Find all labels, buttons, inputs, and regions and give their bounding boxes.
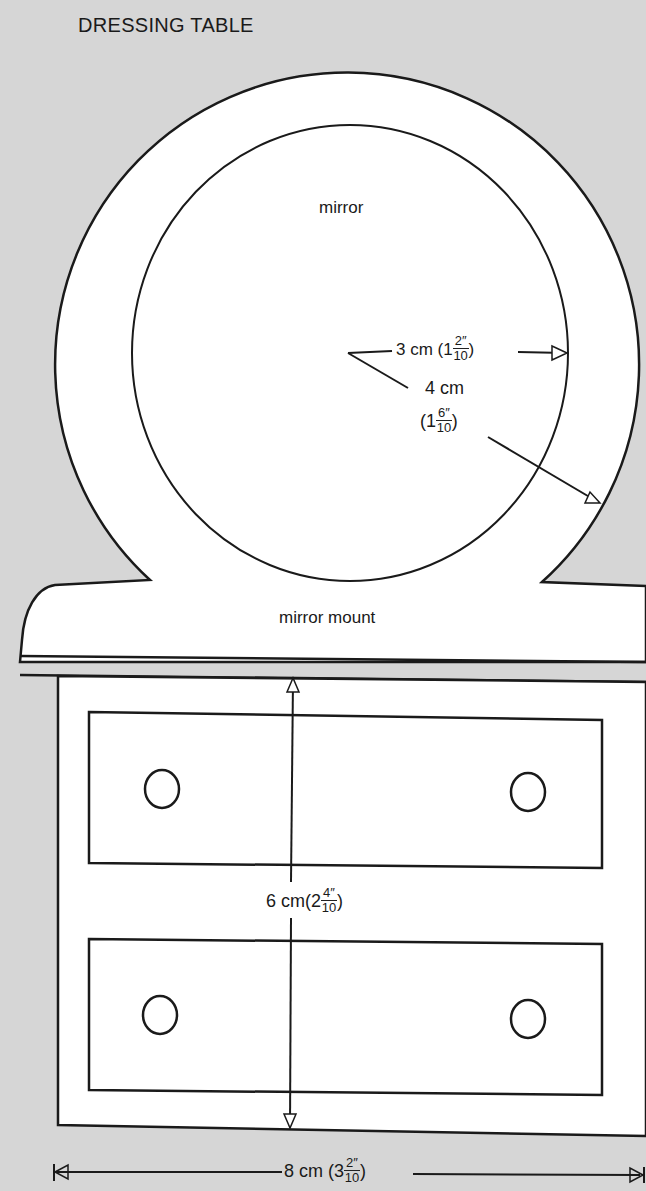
knob <box>145 770 179 808</box>
height-dimension: 6 cm(24″10) <box>264 888 345 917</box>
knob <box>143 996 177 1034</box>
dressing-table-drawing <box>0 0 646 1191</box>
mirror-radius-dimension: 3 cm (12″10) <box>396 336 474 365</box>
frame-radius-metric: 4 cm <box>425 378 464 399</box>
knob <box>511 773 545 811</box>
mirror-label: mirror <box>319 198 363 218</box>
knob <box>511 1000 545 1038</box>
width-dimension: 8 cm (32″10) <box>284 1158 366 1187</box>
mirror-mount-label: mirror mount <box>279 608 375 628</box>
frame-radius-imperial: (16″10) <box>420 408 458 437</box>
page-title: DRESSING TABLE <box>78 14 254 37</box>
